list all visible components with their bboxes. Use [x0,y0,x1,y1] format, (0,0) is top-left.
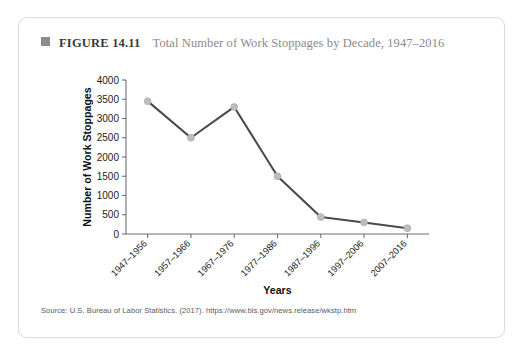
work-stoppages-series-line [148,101,408,228]
data-point-marker [231,104,238,111]
x-axis-ticks: 1947–19561957–19661967–19761977–19861987… [109,234,409,278]
y-tick-label: 1000 [97,190,120,201]
y-tick-label: 3000 [97,113,120,124]
y-tick-label: 4000 [97,75,120,86]
line-chart-svg: 05001000150020002500300035004000 1947–19… [19,18,506,339]
y-axis-ticks: 05001000150020002500300035004000 [97,75,126,240]
data-point-marker [404,225,411,232]
data-point-marker [188,134,195,141]
series-markers [144,98,411,232]
y-tick-label: 2000 [97,152,120,163]
x-tick-label: 1957–1966 [152,238,192,278]
x-tick-label: 1967–1976 [196,238,236,278]
x-tick-label: 2007–2016 [369,238,409,278]
figure-card: FIGURE 14.11 Total Number of Work Stoppa… [18,17,505,338]
data-point-marker [361,219,368,226]
x-tick-label: 1987–1996 [282,238,322,278]
x-axis-title: Years [263,284,291,296]
y-axis-title: Number of Work Stoppages [81,87,93,226]
figure-source: Source: U.S. Bureau of Labor Statistics.… [41,306,356,315]
data-point-marker [317,214,324,221]
y-tick-label: 2500 [97,132,120,143]
x-tick-label: 1997–2006 [326,238,366,278]
y-tick-label: 0 [113,229,119,240]
x-tick-label: 1977–1986 [239,238,279,278]
y-tick-label: 500 [102,209,119,220]
y-tick-label: 3500 [97,94,120,105]
x-tick-label: 1947–1956 [109,238,149,278]
y-tick-label: 1500 [97,171,120,182]
data-point-marker [274,173,281,180]
chart-plot-area: 05001000150020002500300035004000 1947–19… [19,18,506,339]
data-point-marker [144,98,151,105]
